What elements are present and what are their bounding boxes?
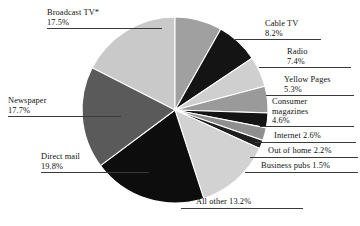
label-consumer-magazines: Consumer magazines 4.6% xyxy=(272,97,308,126)
leader-line-cable-tv xyxy=(235,39,321,40)
label-out-of-home-text: Out of home 2.2% xyxy=(268,146,331,156)
label-broadcast-tv-value: 17.5% xyxy=(47,18,99,28)
label-internet: Internet 2.6% xyxy=(274,131,321,141)
label-newspaper: Newspaper 17.7% xyxy=(8,96,47,115)
label-out-of-home: Out of home 2.2% xyxy=(268,146,331,156)
label-radio-value: 7.4% xyxy=(287,57,308,67)
pie-chart: Broadcast TV* 17.5% Newspaper 17.7% Dire… xyxy=(0,0,360,226)
label-consumer-magazines-line1: Consumer xyxy=(272,97,308,107)
label-newspaper-name: Newspaper xyxy=(8,96,47,106)
label-radio-name: Radio xyxy=(287,47,308,57)
label-yellow-pages: Yellow Pages 5.3% xyxy=(284,75,331,94)
leader-line-radio xyxy=(259,67,351,68)
label-broadcast-tv-name: Broadcast TV* xyxy=(47,8,99,18)
leader-line-yellow-pages xyxy=(266,95,354,96)
leader-line-internet xyxy=(254,142,356,143)
leader-line-out-of-home xyxy=(250,157,358,158)
label-business-pubs: Business pubs 1.5% xyxy=(261,161,330,171)
leader-line-all-other xyxy=(181,208,303,209)
label-broadcast-tv: Broadcast TV* 17.5% xyxy=(47,8,99,27)
leader-line-consumer-magazines xyxy=(260,126,354,127)
leader-line-business-pubs xyxy=(245,172,358,173)
label-cable-tv-value: 8.2% xyxy=(265,29,298,39)
label-cable-tv-name: Cable TV xyxy=(265,19,298,29)
label-direct-mail-name: Direct mail xyxy=(41,152,80,162)
label-newspaper-value: 17.7% xyxy=(8,106,47,116)
pie-slice-group xyxy=(82,17,268,203)
leader-line-newspaper xyxy=(8,116,121,117)
label-consumer-magazines-value: 4.6% xyxy=(272,116,308,126)
leader-line-direct-mail xyxy=(41,172,149,173)
label-all-other: All other 13.2% xyxy=(196,197,251,207)
label-direct-mail: Direct mail 19.8% xyxy=(41,152,80,171)
label-business-pubs-text: Business pubs 1.5% xyxy=(261,161,330,171)
label-yellow-pages-value: 5.3% xyxy=(284,85,331,95)
label-cable-tv: Cable TV 8.2% xyxy=(265,19,298,38)
label-consumer-magazines-line2: magazines xyxy=(272,107,308,117)
label-yellow-pages-name: Yellow Pages xyxy=(284,75,331,85)
label-direct-mail-value: 19.8% xyxy=(41,162,80,172)
label-internet-text: Internet 2.6% xyxy=(274,131,321,141)
label-all-other-text: All other 13.2% xyxy=(196,197,251,207)
label-radio: Radio 7.4% xyxy=(287,47,308,66)
leader-line-broadcast-tv xyxy=(47,28,162,29)
